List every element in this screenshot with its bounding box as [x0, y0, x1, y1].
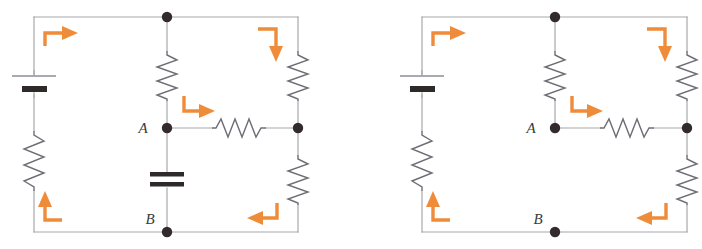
right-circuit: A B: [400, 12, 697, 237]
arrow-top-right: [258, 29, 283, 62]
resistor-left-lower: [412, 131, 432, 191]
node-a: [550, 123, 560, 133]
node-b: [550, 227, 560, 237]
battery: [12, 70, 56, 98]
resistor-middle-upper: [545, 51, 565, 101]
arrow-middle: [572, 96, 603, 118]
resistor-middle-upper: [157, 51, 177, 101]
capacitor: [150, 172, 184, 187]
arrow-middle: [184, 96, 215, 118]
node-b-label: B: [533, 211, 542, 227]
capacitor-plate-bottom: [150, 182, 184, 187]
arrow-top-left: [433, 26, 466, 46]
resistor-right-lower: [288, 155, 308, 205]
resistor-right-lower: [677, 155, 697, 205]
node-right-middle: [682, 123, 692, 133]
arrow-bottom-right: [247, 203, 277, 225]
node-a-label: A: [137, 120, 148, 136]
resistor-right-upper: [677, 51, 697, 101]
arrow-bottom-left: [38, 191, 62, 220]
resistor-horizontal: [212, 119, 266, 137]
left-circuit: A B: [12, 12, 308, 237]
resistor-horizontal: [600, 119, 654, 137]
node-right-middle: [293, 123, 303, 133]
arrow-bottom-right: [636, 203, 666, 225]
resistor-right-upper: [288, 51, 308, 101]
arrow-bottom-left: [426, 191, 450, 220]
circuit-diagram-figure: A B: [0, 0, 702, 249]
node-b-label: B: [145, 211, 154, 227]
battery-short-plate: [22, 86, 47, 92]
resistor-left-lower: [24, 131, 44, 191]
node-a-label: A: [525, 120, 536, 136]
battery: [400, 70, 444, 98]
battery-short-plate: [410, 86, 435, 92]
node-a: [162, 123, 172, 133]
node-b: [162, 227, 172, 237]
circuit-canvas: A B: [0, 0, 702, 249]
arrow-top-left: [45, 26, 78, 46]
node-top-middle: [162, 12, 172, 22]
capacitor-plate-top: [150, 172, 184, 177]
node-top-middle: [550, 12, 560, 22]
arrow-top-right: [647, 29, 672, 62]
